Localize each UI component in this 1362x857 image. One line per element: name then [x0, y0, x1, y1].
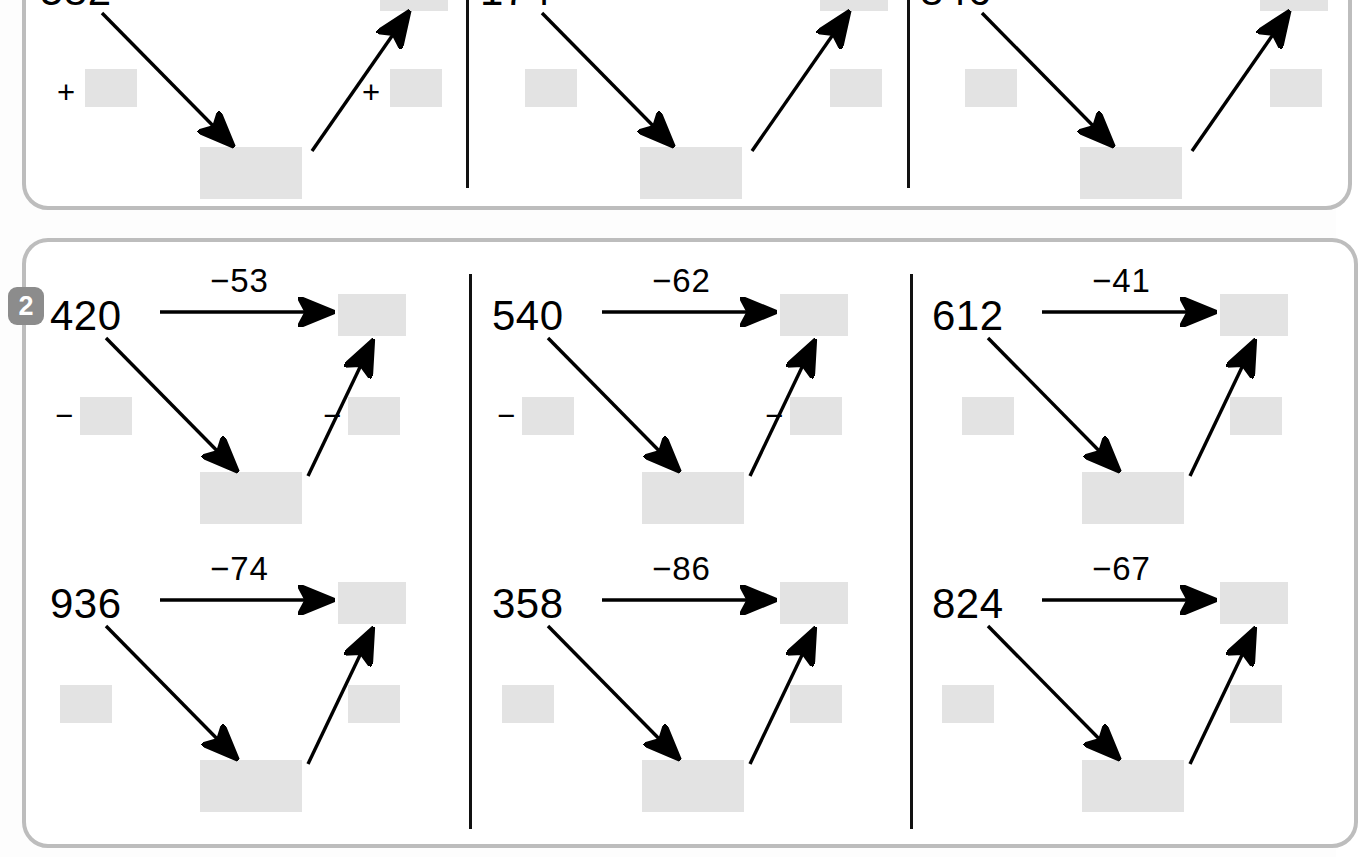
problem-cell: 174	[480, 0, 910, 205]
column-divider	[910, 274, 913, 829]
cell-arrows	[40, 0, 470, 205]
problem-cell: 824 −67	[932, 568, 1362, 818]
cell-arrows	[932, 280, 1362, 530]
cell-arrows	[50, 568, 480, 818]
problem-cell: 612 −41	[932, 280, 1362, 530]
problem-cell: 582 + +	[40, 0, 470, 205]
problem-cell: 420 −53 − −	[50, 280, 480, 530]
cell-arrows	[932, 568, 1362, 818]
problem-cell: 358 −86	[492, 568, 922, 818]
column-divider	[907, 0, 910, 188]
problem-cell: 846	[920, 0, 1350, 205]
problem-cell: 936 −74	[50, 568, 480, 818]
cell-arrows	[492, 280, 922, 530]
column-divider	[469, 274, 472, 829]
problem-cell: 540 −62 − −	[492, 280, 922, 530]
cell-arrows	[492, 568, 922, 818]
cell-arrows	[480, 0, 910, 205]
column-divider	[466, 0, 469, 188]
exercise-number-badge: 2	[8, 287, 44, 325]
cell-arrows	[920, 0, 1350, 205]
cell-arrows	[50, 280, 480, 530]
